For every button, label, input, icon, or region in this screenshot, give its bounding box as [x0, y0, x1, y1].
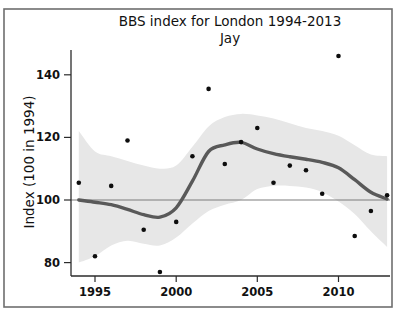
data-point-2006	[271, 181, 276, 186]
bbs-index-figure: BBS index for London 1994-2013 Jay Index…	[0, 0, 400, 314]
data-point-2011	[352, 234, 357, 239]
x-tick-label-1995: 1995	[79, 285, 111, 299]
data-point-2012	[369, 209, 374, 214]
x-tick-label-2005: 2005	[241, 285, 273, 299]
data-point-2007	[288, 163, 293, 168]
y-tick-label-80: 80	[44, 256, 60, 270]
y-tick-label-100: 100	[36, 193, 60, 207]
bbs-chart: BBS index for London 1994-2013 Jay Index…	[0, 0, 400, 314]
data-point-1999	[158, 270, 163, 275]
x-tick-label-2000: 2000	[160, 285, 192, 299]
confidence-band-layer	[79, 114, 387, 263]
chart-title: BBS index for London 1994-2013	[119, 13, 342, 29]
y-axis-label: Index (100 in 1994)	[21, 95, 37, 228]
data-point-2000	[174, 220, 179, 225]
data-point-1998	[141, 227, 146, 232]
y-tick-label-140: 140	[36, 68, 60, 82]
data-point-2004	[239, 140, 244, 145]
data-point-1996	[109, 184, 114, 189]
data-point-1997	[125, 138, 130, 143]
data-point-1995	[93, 254, 98, 259]
confidence-band	[79, 114, 387, 263]
chart-subtitle: Jay	[219, 30, 240, 46]
data-point-2013	[385, 193, 390, 198]
data-point-2010	[336, 54, 341, 59]
data-point-2003	[223, 162, 228, 167]
x-tick-label-2010: 2010	[322, 285, 354, 299]
data-point-2001	[190, 154, 195, 159]
data-point-2002	[206, 87, 211, 92]
data-point-2005	[255, 126, 260, 131]
data-point-2009	[320, 191, 325, 196]
y-tick-label-120: 120	[36, 130, 60, 144]
data-point-1994	[77, 181, 82, 186]
data-point-2008	[304, 168, 309, 173]
